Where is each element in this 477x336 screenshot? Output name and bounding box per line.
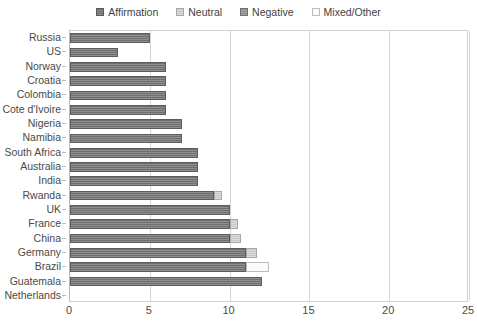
y-axis-tick — [62, 223, 66, 224]
gridline-25 — [469, 31, 470, 301]
legend-label: Mixed/Other — [324, 6, 381, 18]
bar-rows — [70, 31, 467, 301]
y-axis-label: Brazil — [35, 260, 61, 272]
y-axis-label: Nigeria — [28, 117, 61, 129]
bar-segment[interactable] — [70, 105, 166, 115]
bar-segment[interactable] — [70, 119, 182, 129]
bar-segment[interactable] — [246, 248, 257, 258]
y-axis-label: UK — [46, 203, 61, 215]
y-axis-tick — [62, 252, 66, 253]
bar-segment[interactable] — [70, 205, 230, 215]
y-axis-tick — [62, 281, 66, 282]
legend-item-negative[interactable]: Negative — [240, 6, 293, 18]
y-axis-label: Namibia — [22, 131, 61, 143]
bar-row[interactable] — [70, 191, 467, 201]
y-axis-tick — [62, 109, 66, 110]
chart-legend: AffirmationNeutralNegativeMixed/Other — [0, 6, 477, 18]
y-axis-label: India — [38, 174, 61, 186]
bar-chart: AffirmationNeutralNegativeMixed/Other Ru… — [0, 0, 477, 336]
bar-row[interactable] — [70, 291, 467, 301]
y-axis-label: Norway — [25, 60, 61, 72]
legend-item-affirmation[interactable]: Affirmation — [96, 6, 158, 18]
y-axis-label: Croatia — [27, 74, 61, 86]
bar-segment[interactable] — [230, 234, 241, 244]
y-axis-label: Australia — [20, 160, 61, 172]
bar-row[interactable] — [70, 162, 467, 172]
legend-item-neutral[interactable]: Neutral — [176, 6, 222, 18]
y-axis-label: Colombia — [17, 88, 61, 100]
legend-label: Affirmation — [108, 6, 158, 18]
bar-segment[interactable] — [70, 277, 262, 287]
bar-row[interactable] — [70, 262, 467, 272]
bar-segment[interactable] — [70, 234, 230, 244]
y-axis-tick — [62, 152, 66, 153]
y-axis-label: Russia — [29, 31, 61, 43]
y-axis-labels: RussiaUSNorwayCroatiaColombiaCote d'Ivoi… — [0, 30, 66, 302]
bar-segment[interactable] — [70, 148, 198, 158]
y-axis-tick — [62, 180, 66, 181]
x-axis-label: 20 — [382, 304, 394, 316]
y-axis-tick — [62, 137, 66, 138]
y-axis-label: Netherlands — [4, 289, 61, 301]
bar-row[interactable] — [70, 91, 467, 101]
legend-swatch-icon — [96, 8, 104, 16]
legend-label: Negative — [252, 6, 293, 18]
bar-segment[interactable] — [70, 176, 198, 186]
y-axis-label: Cote d'Ivoire — [2, 103, 61, 115]
y-axis-label: US — [46, 45, 61, 57]
y-axis-tick — [62, 238, 66, 239]
bar-segment[interactable] — [70, 48, 118, 58]
bar-row[interactable] — [70, 33, 467, 43]
bar-row[interactable] — [70, 248, 467, 258]
legend-item-mixed-other[interactable]: Mixed/Other — [312, 6, 381, 18]
x-axis-label: 25 — [462, 304, 474, 316]
bar-row[interactable] — [70, 148, 467, 158]
y-axis-tick — [62, 66, 66, 67]
y-axis-label: Germany — [18, 246, 61, 258]
bar-segment[interactable] — [70, 33, 150, 43]
plot-area — [69, 30, 468, 302]
legend-swatch-icon — [176, 8, 184, 16]
y-axis-tick — [62, 195, 66, 196]
y-axis-tick — [62, 123, 66, 124]
bar-segment[interactable] — [70, 191, 214, 201]
bar-segment[interactable] — [246, 262, 270, 272]
bar-row[interactable] — [70, 119, 467, 129]
bar-segment[interactable] — [70, 262, 246, 272]
y-axis-tick — [62, 51, 66, 52]
y-axis-tick — [62, 37, 66, 38]
bar-row[interactable] — [70, 277, 467, 287]
y-axis-tick — [62, 94, 66, 95]
bar-row[interactable] — [70, 134, 467, 144]
bar-segment[interactable] — [230, 219, 238, 229]
y-axis-label: Rwanda — [22, 189, 61, 201]
y-axis-label: China — [34, 232, 61, 244]
bar-segment[interactable] — [70, 62, 166, 72]
y-axis-label: South Africa — [4, 146, 61, 158]
bar-segment[interactable] — [70, 162, 198, 172]
bar-segment[interactable] — [70, 219, 230, 229]
bar-row[interactable] — [70, 219, 467, 229]
bar-row[interactable] — [70, 76, 467, 86]
y-axis-label: Guatemala — [10, 275, 61, 287]
bar-row[interactable] — [70, 176, 467, 186]
bar-segment[interactable] — [70, 91, 166, 101]
bar-segment[interactable] — [70, 134, 182, 144]
legend-swatch-icon — [240, 8, 248, 16]
bar-row[interactable] — [70, 62, 467, 72]
x-axis-label: 10 — [222, 304, 234, 316]
legend-label: Neutral — [188, 6, 222, 18]
x-axis-labels: 0510152025 — [0, 304, 477, 324]
legend-swatch-icon — [312, 8, 320, 16]
y-axis-tick — [62, 166, 66, 167]
y-axis-tick — [62, 295, 66, 296]
bar-row[interactable] — [70, 48, 467, 58]
bar-row[interactable] — [70, 205, 467, 215]
bar-segment[interactable] — [70, 76, 166, 86]
bar-row[interactable] — [70, 105, 467, 115]
bar-segment[interactable] — [70, 248, 246, 258]
x-axis-label: 5 — [146, 304, 152, 316]
bar-row[interactable] — [70, 234, 467, 244]
bar-segment[interactable] — [214, 191, 222, 201]
y-axis-label: France — [28, 217, 61, 229]
